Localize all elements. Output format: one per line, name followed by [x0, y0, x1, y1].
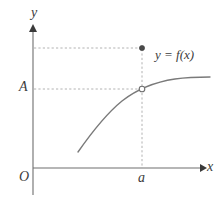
y-axis-arrow-icon — [29, 24, 37, 32]
y-axis-label: y — [31, 6, 37, 20]
open-circle-marker — [139, 86, 145, 92]
x-axis-label: x — [207, 160, 213, 174]
x-axis-arrow-icon — [200, 164, 207, 172]
origin-label: O — [19, 170, 29, 184]
x-value-label-a: a — [138, 171, 145, 185]
figure-canvas — [0, 0, 223, 202]
y-value-label-A: A — [19, 80, 28, 94]
filled-point-marker — [139, 45, 144, 50]
math-figure: y x O A a y = f(x) — [0, 0, 223, 202]
function-label: y = f(x) — [155, 48, 194, 61]
